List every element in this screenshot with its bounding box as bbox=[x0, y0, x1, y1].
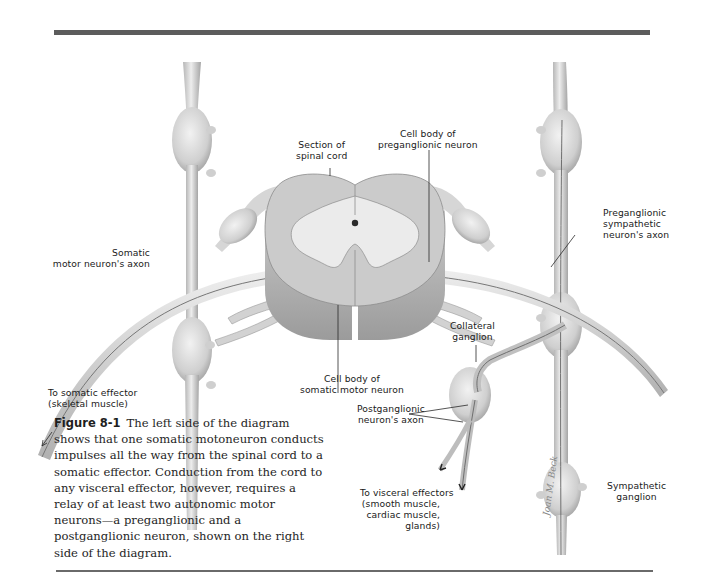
label-line: ganglion bbox=[450, 331, 495, 342]
label-line: glands) bbox=[360, 520, 440, 531]
label-line: motor neuron's axon bbox=[40, 258, 150, 269]
label-line: neuron's axon bbox=[603, 229, 669, 240]
label-line: neuron's axon bbox=[357, 414, 425, 425]
label-line: Cell body of bbox=[300, 373, 404, 384]
label-to-visceral-effectors: To visceral effectors (smooth muscle, ca… bbox=[360, 487, 440, 531]
label-cell-body-somatic: Cell body of somatic motor neuron bbox=[300, 373, 404, 395]
label-line: cardiac muscle, bbox=[360, 509, 440, 520]
label-somatic-axon: Somatic motor neuron's axon bbox=[40, 247, 150, 269]
label-line: Sympathetic bbox=[607, 480, 666, 491]
label-line: spinal cord bbox=[296, 150, 347, 161]
label-line: (skeletal muscle) bbox=[48, 398, 137, 409]
label-postganglionic-axon: Postganglionic neuron's axon bbox=[357, 403, 425, 425]
label-line: somatic motor neuron bbox=[300, 384, 404, 395]
label-collateral-ganglion: Collateral ganglion bbox=[450, 320, 495, 342]
label-line: Preganglionic bbox=[603, 207, 669, 218]
label-line: Collateral bbox=[450, 320, 495, 331]
figure-number: Figure 8-1 bbox=[54, 416, 120, 430]
label-line: To somatic effector bbox=[48, 387, 137, 398]
label-line: (smooth muscle, bbox=[360, 498, 440, 509]
label-line: Section of bbox=[296, 139, 347, 150]
label-line: Postganglionic bbox=[357, 403, 425, 414]
label-line: To visceral effectors bbox=[360, 487, 440, 498]
label-line: preganglionic neuron bbox=[378, 139, 478, 150]
label-to-somatic-effector: To somatic effector (skeletal muscle) bbox=[48, 387, 137, 409]
spinal-cord-section bbox=[265, 174, 445, 340]
label-sympathetic-ganglion: Sympathetic ganglion bbox=[607, 480, 666, 502]
label-section-of-spinal-cord: Section of spinal cord bbox=[296, 139, 347, 161]
label-preganglionic-axon: Preganglionic sympathetic neuron's axon bbox=[603, 207, 669, 240]
label-line: sympathetic bbox=[603, 218, 669, 229]
caption-text: The left side of the diagram shows that … bbox=[54, 416, 324, 560]
label-line: Somatic bbox=[40, 247, 150, 258]
figure-caption: Figure 8-1The left side of the diagram s… bbox=[54, 415, 324, 561]
bottom-rule bbox=[56, 570, 653, 572]
label-cell-body-preganglionic: Cell body of preganglionic neuron bbox=[378, 128, 478, 150]
collateral-ganglion bbox=[440, 325, 565, 490]
label-line: ganglion bbox=[607, 491, 666, 502]
label-line: Cell body of bbox=[378, 128, 478, 139]
